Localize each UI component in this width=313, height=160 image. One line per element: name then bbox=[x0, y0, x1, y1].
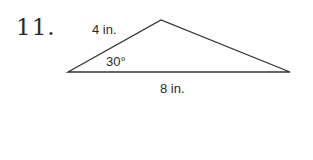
side-bottom-label: 8 in. bbox=[160, 81, 185, 96]
triangle-figure: 4 in. 30° 8 in. bbox=[0, 0, 313, 160]
angle-label: 30° bbox=[106, 54, 126, 69]
side-left-label: 4 in. bbox=[92, 22, 117, 37]
